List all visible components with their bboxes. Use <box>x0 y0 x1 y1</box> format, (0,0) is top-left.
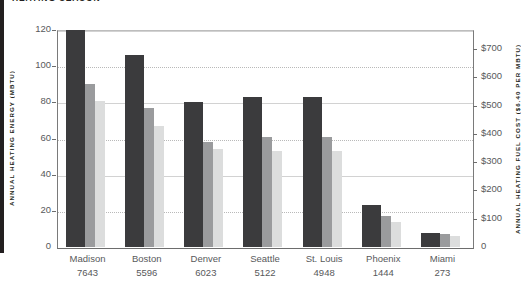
x-axis-label: Phoenix1444 <box>354 252 413 280</box>
x-axis-label: St. Louis4948 <box>295 252 354 280</box>
x-axis-city-name: Denver <box>176 252 235 266</box>
left-axis-title: ANNUAL HEATING ENERGY (MBTU) <box>4 30 18 247</box>
left-tick-label: 100 <box>22 59 51 70</box>
bar-group <box>413 30 472 247</box>
right-tick-label: $600 <box>481 70 502 81</box>
left-tick-label: 40 <box>22 168 51 179</box>
x-axis-heating-degree-days: 7643 <box>58 266 117 280</box>
right-tick-label: $400 <box>481 127 502 138</box>
x-axis-city-name: Seattle <box>235 252 294 266</box>
bar-series-layer <box>58 30 472 247</box>
right-tick-mark <box>473 49 477 50</box>
left-tick-mark <box>52 66 56 67</box>
left-tick-label: 80 <box>22 95 51 106</box>
bar <box>66 30 85 247</box>
right-tick-label: 0 <box>481 240 486 251</box>
x-axis-city-name: Madison <box>58 252 117 266</box>
right-tick-mark <box>473 219 477 220</box>
bar-group <box>117 30 176 247</box>
right-tick-mark <box>473 162 477 163</box>
right-tick-label: $500 <box>481 99 502 110</box>
x-axis-city-name: St. Louis <box>295 252 354 266</box>
left-axis-tick-labels: 020406080100120 <box>22 30 51 247</box>
right-tick-label: $200 <box>481 183 502 194</box>
left-tick-mark <box>52 211 56 212</box>
x-axis-city-name: Phoenix <box>354 252 413 266</box>
bar <box>243 97 262 247</box>
x-axis-city-name: Miami <box>413 252 472 266</box>
x-axis-label: Denver6023 <box>176 252 235 280</box>
bar-group <box>58 30 117 247</box>
bar-group <box>354 30 413 247</box>
x-axis-label: Madison7643 <box>58 252 117 280</box>
bar <box>421 233 440 247</box>
x-axis-label: Seattle5122 <box>235 252 294 280</box>
right-tick-label: $100 <box>481 212 502 223</box>
left-tick-mark <box>52 102 56 103</box>
bar-group <box>295 30 354 247</box>
right-tick-label: $300 <box>481 155 502 166</box>
bar <box>303 97 322 247</box>
chart-title: HEATING SEASON <box>12 0 100 3</box>
right-tick-mark <box>473 77 477 78</box>
x-axis-label: Boston5596 <box>117 252 176 280</box>
x-axis-labels: Madison7643Boston5596Denver6023Seattle51… <box>58 252 472 288</box>
bar <box>362 205 381 247</box>
left-tick-label: 0 <box>22 240 51 251</box>
left-tick-mark <box>52 30 56 31</box>
right-axis-tick-marks <box>473 30 478 247</box>
right-tick-mark <box>473 134 477 135</box>
x-axis-heating-degree-days: 1444 <box>354 266 413 280</box>
x-axis-heating-degree-days: 4948 <box>295 266 354 280</box>
x-axis-heating-degree-days: 273 <box>413 266 472 280</box>
x-axis-label: Miami273 <box>413 252 472 280</box>
x-axis-city-name: Boston <box>117 252 176 266</box>
bar-group <box>176 30 235 247</box>
left-tick-label: 60 <box>22 132 51 143</box>
x-axis-heating-degree-days: 5596 <box>117 266 176 280</box>
bar-group <box>235 30 294 247</box>
x-axis-heating-degree-days: 6023 <box>176 266 235 280</box>
right-tick-mark <box>473 106 477 107</box>
right-axis-tick-labels: 0$100$200$300$400$500$600$700 <box>481 30 517 247</box>
left-tick-mark <box>52 175 56 176</box>
left-tick-label: 20 <box>22 204 51 215</box>
left-tick-label: 120 <box>22 23 51 34</box>
left-axis-tick-marks <box>52 30 57 247</box>
bar <box>184 102 203 247</box>
right-tick-mark <box>473 190 477 191</box>
right-tick-label: $700 <box>481 42 502 53</box>
left-tick-mark <box>52 139 56 140</box>
x-axis-heating-degree-days: 5122 <box>235 266 294 280</box>
bar <box>125 55 144 247</box>
